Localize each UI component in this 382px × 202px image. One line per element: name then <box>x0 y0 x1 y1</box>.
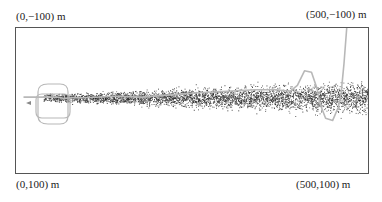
trajectory-line <box>24 27 347 124</box>
label-top-right: (500,−100) m <box>306 8 367 20</box>
label-bottom-left: (0,100) m <box>16 178 59 190</box>
label-top-left: (0,−100) m <box>16 10 66 22</box>
chart-plot <box>0 0 382 202</box>
label-bottom-right: (500,100) m <box>296 178 350 190</box>
